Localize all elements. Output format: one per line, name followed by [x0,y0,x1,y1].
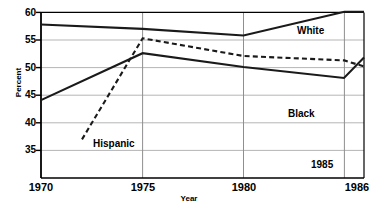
x-tick-1980: 1980 [224,182,264,193]
series-label-hispanic: Hispanic [93,139,135,149]
x-tick-1975: 1975 [123,182,163,193]
line-chart: Percent 60 55 50 45 40 35 [0,0,378,209]
series-line-black [41,53,364,100]
x-tick-1970: 1970 [21,182,61,193]
series-label-white: White [297,26,324,36]
series-label-black: Black [288,109,315,119]
x-tick-1986: 1986 [337,182,377,193]
gridlines-horizontal [41,40,364,150]
annotation-1985: 1985 [311,160,333,170]
series-line-hispanic [82,38,364,139]
x-axis-title: Year [0,194,378,203]
